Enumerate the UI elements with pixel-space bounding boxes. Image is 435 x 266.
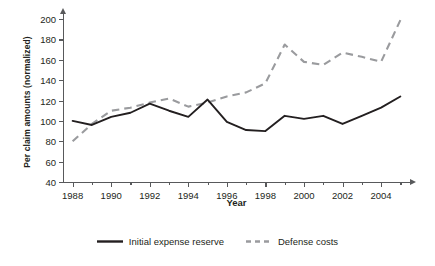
x-tick-minor: [246, 182, 247, 185]
y-tick-label: 140: [40, 75, 56, 86]
x-tick: [343, 182, 344, 187]
x-axis-arrow-icon: [410, 179, 416, 185]
x-tick-minor: [362, 182, 363, 185]
legend-item-defense-costs: Defense costs: [246, 236, 338, 247]
x-tick: [111, 182, 112, 187]
x-tick: [381, 182, 382, 187]
x-tick-minor: [92, 182, 93, 185]
x-tick: [73, 182, 74, 187]
x-tick-minor: [208, 182, 209, 185]
legend-swatch-solid-icon: [97, 237, 123, 246]
line-initial-expense-reserve: [73, 96, 401, 131]
legend-item-initial-expense-reserve: Initial expense reserve: [97, 236, 224, 247]
y-tick-label: 40: [45, 177, 56, 188]
x-tick-minor: [323, 182, 324, 185]
chart-container: Per claim amounts (normalized) 406080100…: [0, 0, 435, 266]
x-tick-minor: [400, 182, 401, 185]
x-tick-minor: [285, 182, 286, 185]
chart-legend: Initial expense reserve Defense costs: [0, 236, 435, 247]
x-tick: [304, 182, 305, 187]
y-tick-label: 120: [40, 95, 56, 106]
x-axis-title: Year: [63, 197, 410, 208]
series-lines: [63, 14, 410, 182]
x-tick: [188, 182, 189, 187]
plot-area: 406080100120140160180200 198819901992199…: [63, 14, 410, 182]
x-tick: [150, 182, 151, 187]
legend-label-initial-expense-reserve: Initial expense reserve: [129, 236, 224, 247]
x-tick-minor: [130, 182, 131, 185]
y-tick-label: 80: [45, 136, 56, 147]
x-axis-line: [63, 182, 410, 183]
y-tick-label: 100: [40, 115, 56, 126]
y-axis-title: Per claim amounts (normalized): [22, 12, 32, 192]
y-tick-label: 60: [45, 156, 56, 167]
line-defense-costs: [73, 20, 401, 141]
y-tick-label: 180: [40, 34, 56, 45]
legend-label-defense-costs: Defense costs: [278, 236, 338, 247]
legend-swatch-dashed-icon: [246, 237, 272, 246]
x-tick: [265, 182, 266, 187]
y-tick: [59, 182, 64, 183]
y-tick-label: 200: [40, 14, 56, 25]
y-tick-label: 160: [40, 54, 56, 65]
x-tick-minor: [169, 182, 170, 185]
x-tick: [227, 182, 228, 187]
